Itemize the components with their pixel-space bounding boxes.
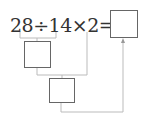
math-expression: 28÷14×2= [10, 14, 114, 36]
arrow-up-icon [121, 38, 125, 43]
step2-box[interactable] [49, 78, 75, 103]
bracket-box1-and-2 [37, 68, 87, 75]
answer-box[interactable] [110, 10, 138, 38]
step1-box[interactable] [24, 41, 51, 68]
